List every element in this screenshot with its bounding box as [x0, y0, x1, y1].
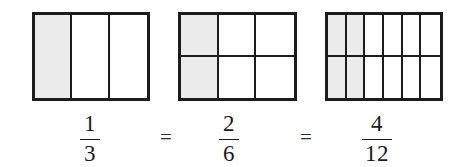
model-cell [365, 57, 384, 99]
fraction-numerator: 1 [70, 112, 110, 137]
model-cell [181, 15, 219, 57]
model-cell [403, 57, 422, 99]
equals-sign-1: = [160, 127, 172, 148]
fraction-bar [219, 139, 239, 140]
model-cell [110, 15, 147, 98]
fraction-numerator: 4 [353, 112, 401, 137]
model-cell [256, 15, 294, 57]
model-cell [365, 15, 384, 57]
fraction-bar [362, 139, 392, 140]
model-cell [384, 57, 403, 99]
area-model-thirds [32, 12, 150, 101]
fraction-denominator: 12 [353, 142, 401, 167]
model-cell [328, 57, 347, 99]
equals-sign-2: = [300, 127, 312, 148]
fraction-one-third: 1 3 [70, 112, 110, 167]
fraction-four-twelfths: 4 12 [353, 112, 401, 167]
model-cell [181, 57, 219, 99]
model-cell [421, 57, 440, 99]
fraction-bar [80, 139, 100, 140]
model-cell [347, 57, 366, 99]
fraction-two-sixths: 2 6 [209, 112, 249, 167]
fraction-denominator: 6 [209, 142, 249, 167]
area-model-sixths [178, 12, 297, 101]
model-cell [421, 15, 440, 57]
fraction-denominator: 3 [70, 142, 110, 167]
model-cell [219, 57, 257, 99]
area-model-twelfths [325, 12, 443, 101]
model-cell [35, 15, 72, 98]
model-cell [384, 15, 403, 57]
model-cell [219, 15, 257, 57]
model-cell [256, 57, 294, 99]
model-cell [328, 15, 347, 57]
model-cell [72, 15, 109, 98]
model-cell [403, 15, 422, 57]
fraction-numerator: 2 [209, 112, 249, 137]
figure-canvas: 1 3 = 2 6 = 4 12 [0, 0, 469, 167]
model-cell [347, 15, 366, 57]
